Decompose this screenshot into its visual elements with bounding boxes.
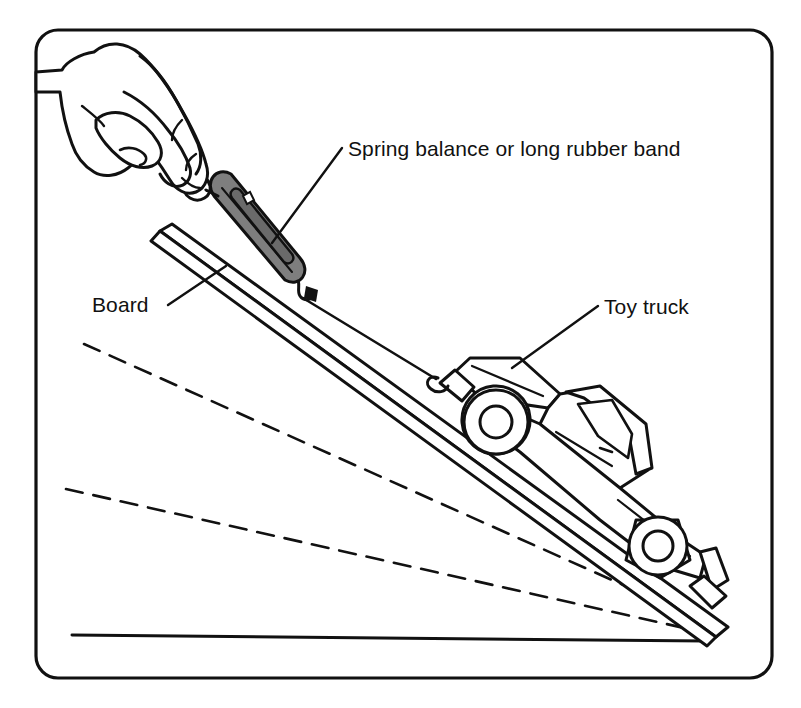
figure-root: Spring balance or long rubber band Board… xyxy=(0,0,801,708)
toy-truck xyxy=(427,358,728,608)
leader-line-spring-balance xyxy=(272,148,342,243)
ground-line xyxy=(72,635,706,641)
label-board: Board xyxy=(92,293,149,316)
truck-rear-hub xyxy=(643,531,673,561)
truck-front-hub xyxy=(480,406,512,438)
hand xyxy=(36,44,208,193)
label-spring-balance: Spring balance or long rubber band xyxy=(348,137,681,160)
leader-line-toy-truck xyxy=(512,306,598,368)
illustration-canvas: Spring balance or long rubber band Board… xyxy=(0,0,801,708)
label-toy-truck: Toy truck xyxy=(604,295,689,318)
